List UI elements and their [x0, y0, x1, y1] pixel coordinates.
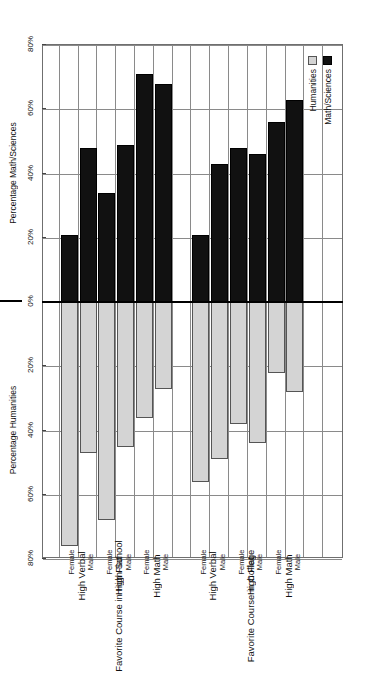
legend-swatch-humanities — [309, 56, 318, 65]
category-label-sex: Male — [293, 539, 302, 585]
x-axis-tick-label: 80% — [26, 536, 35, 580]
x-axis-tick-label: 60% — [26, 86, 35, 130]
x-axis-tick-label: 60% — [26, 472, 35, 516]
bar-math-sciences — [268, 122, 285, 302]
bar-humanities — [192, 302, 209, 482]
bar-humanities — [211, 302, 228, 459]
bar-humanities — [61, 302, 78, 546]
category-label-sex: Male — [218, 539, 227, 585]
bar-math-sciences — [61, 235, 78, 302]
bar-humanities — [268, 302, 285, 373]
bar-math-sciences — [117, 145, 134, 302]
x-axis-tick-label: 40% — [26, 408, 35, 452]
category-label-profile: High Math — [151, 531, 162, 621]
bar-math-sciences — [136, 74, 153, 302]
bar-math-sciences — [80, 148, 97, 302]
x-axis-tick-mark — [42, 365, 46, 366]
legend-item-humanities: Humanities — [308, 56, 318, 125]
bar-math-sciences — [98, 193, 115, 302]
legend-swatch-math-sciences — [324, 56, 333, 65]
category-label-group: Favorite Course in High School — [113, 516, 124, 675]
x-axis-tick-mark — [42, 558, 46, 559]
gridline-vertical — [43, 45, 342, 46]
legend-item-math-sciences: Math/Sciences — [323, 56, 333, 125]
category-label-sex: Female — [67, 539, 76, 585]
x-axis-tick-label: 40% — [26, 151, 35, 195]
bar-humanities — [80, 302, 97, 453]
category-label-sex: Female — [274, 539, 283, 585]
chart-legend: Math/Sciences Humanities — [303, 56, 333, 125]
bar-math-sciences — [192, 235, 209, 302]
bar-humanities — [117, 302, 134, 447]
bar-math-sciences — [249, 154, 266, 302]
bar-humanities — [286, 302, 303, 392]
zero-baseline — [42, 301, 343, 303]
category-label-group: Favorite Course in College — [245, 516, 256, 675]
x-axis-tick-mark — [42, 237, 46, 238]
bar-humanities — [155, 302, 172, 389]
x-axis-tick-label: 20% — [26, 343, 35, 387]
bar-math-sciences — [230, 148, 247, 302]
x-axis-tick-label: 80% — [26, 22, 35, 66]
legend-label-humanities: Humanities — [308, 69, 318, 112]
category-label-profile: High Verbal — [207, 531, 218, 621]
category-label-sex: Male — [86, 539, 95, 585]
x-axis-tick-label: 0% — [26, 279, 35, 323]
x-axis-tick-mark — [42, 494, 46, 495]
bar-math-sciences — [155, 84, 172, 302]
x-axis-tick-mark — [42, 108, 46, 109]
bar-humanities — [249, 302, 266, 443]
category-label-sex: Male — [124, 539, 133, 585]
bar-math-sciences — [286, 100, 303, 302]
x-axis-tick-mark — [42, 173, 46, 174]
category-label-sex: Male — [161, 539, 170, 585]
category-label-profile: High Math — [283, 531, 294, 621]
x-axis-tick-label: 20% — [26, 215, 35, 259]
gridline-vertical — [43, 495, 342, 496]
axis-title-separator — [0, 300, 22, 302]
category-label-sex: Male — [255, 539, 264, 585]
category-label-profile: High Verbal — [76, 531, 87, 621]
bar-math-sciences — [211, 164, 228, 302]
x-axis-tick-mark — [42, 430, 46, 431]
x-axis-title-right: Percentage Humanities — [8, 350, 18, 510]
bar-humanities — [98, 302, 115, 520]
legend-label-math-sciences: Math/Sciences — [323, 69, 333, 125]
bar-humanities — [230, 302, 247, 424]
x-axis-tick-mark — [42, 44, 46, 45]
bar-humanities — [136, 302, 153, 418]
x-axis-title-left: Percentage Math/Sciences — [8, 93, 18, 253]
plot-area — [42, 44, 343, 558]
